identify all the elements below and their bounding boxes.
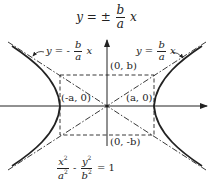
asymptote-left-fraction: b a <box>74 40 82 62</box>
title-fraction: b a <box>116 4 126 30</box>
term-x-fraction: x2 a2 <box>57 155 69 181</box>
point-label-left-vertex: (-a, 0) <box>61 93 91 103</box>
hyperbola-equation: x2 a2 - y2 b2 = 1 <box>56 155 115 181</box>
asymptote-right-label: y = b a x <box>136 40 176 62</box>
left-label-leader <box>33 52 44 57</box>
origin-point <box>105 104 108 107</box>
point-label-top: (0, b) <box>110 61 137 71</box>
point-label-right-vertex: (a, 0) <box>126 93 152 103</box>
title-equation: y = ± b a x <box>0 4 213 30</box>
point-label-bottom: (0, -b) <box>110 137 140 147</box>
asymptote-right-fraction: b a <box>157 40 165 62</box>
asymptote-left-label: y = - b a x <box>46 40 92 62</box>
hyperbola-diagram: y = ± b a x y = - b a x y = b a x (0, b)… <box>0 0 213 188</box>
term-y-fraction: y2 b2 <box>81 155 93 181</box>
